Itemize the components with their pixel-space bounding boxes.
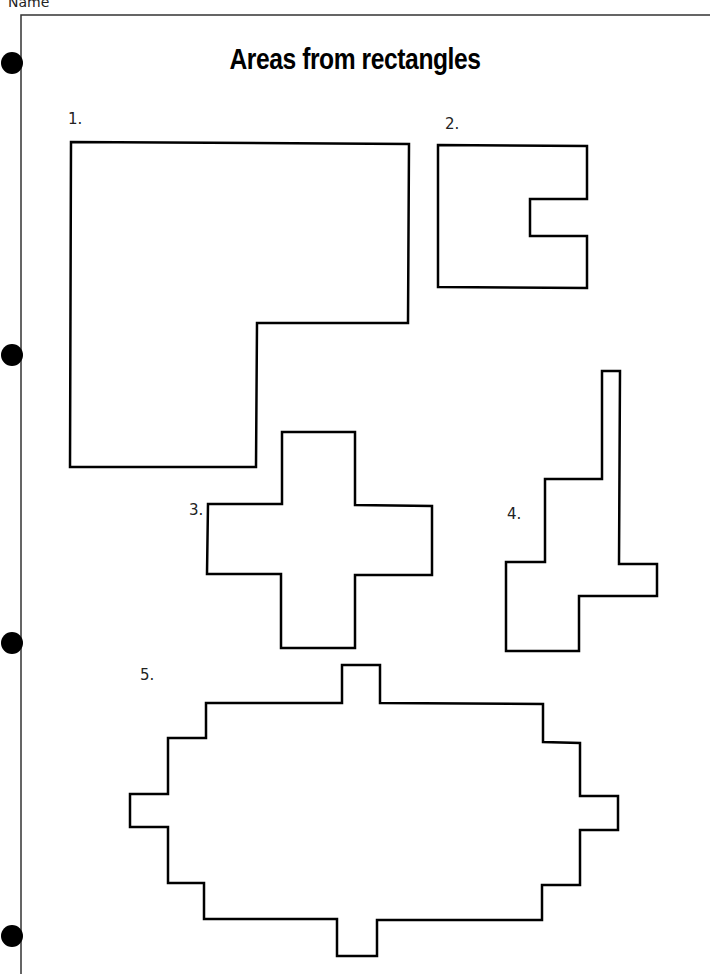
- shape-2-notched-rectangle: [438, 145, 587, 288]
- hole-punch-4: [1, 925, 23, 947]
- hole-punch-2: [1, 344, 23, 366]
- worksheet-shapes: [0, 0, 710, 974]
- shape-3-cross: [207, 432, 432, 648]
- shape-5-stepped-oval: [130, 665, 618, 956]
- hole-punch-1: [1, 52, 23, 74]
- shape-1-l-shape: [70, 142, 409, 467]
- shape-4-stepped-tower: [506, 371, 657, 651]
- hole-punch-3: [1, 632, 23, 654]
